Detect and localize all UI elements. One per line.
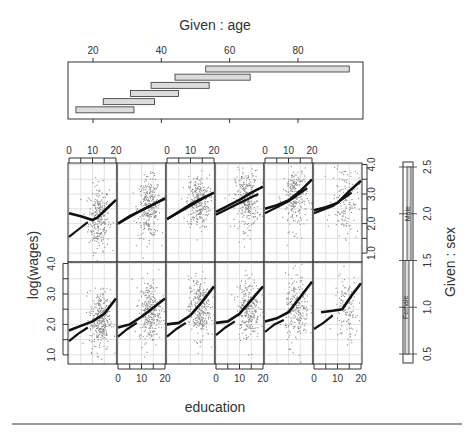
sex-tick-label: 2.5: [422, 160, 433, 174]
x-tick-label: 20: [110, 145, 122, 156]
age-tick-label: 60: [224, 45, 236, 56]
given-sex-title: Given : sex: [442, 227, 458, 297]
x-tick-label: 0: [262, 145, 268, 156]
given-age-title: Given : age: [179, 17, 251, 33]
fit-line: [216, 194, 258, 215]
sex-level-label: Female: [402, 295, 409, 318]
sex-tick-label: 2.0: [422, 206, 433, 220]
y-tick-label: 1.0: [366, 246, 377, 260]
x-tick-label: 20: [159, 373, 171, 384]
panel: [117, 163, 166, 262]
x-tick-label: 0: [213, 373, 219, 384]
y-tick-label: 2.0: [46, 317, 57, 331]
y-axis-label: log(wages): [25, 231, 41, 299]
x-axis-label: education: [185, 399, 246, 415]
fit-line: [314, 315, 333, 329]
panel: [68, 262, 117, 364]
panel: [264, 262, 313, 364]
x-tick-label: 20: [208, 145, 220, 156]
age-interval-bar: [131, 91, 179, 97]
x-tick-label: 10: [87, 145, 99, 156]
x-tick-label: 0: [66, 145, 72, 156]
age-tick-label: 40: [156, 45, 168, 56]
y-tick-label: 1.0: [46, 347, 57, 361]
coplot-chart: 20406080 0.51.01.52.02.5FemaleMale 01020…: [0, 0, 472, 434]
y-tick-label: 3.0: [46, 287, 57, 301]
sex-tick-label: 1.0: [422, 300, 433, 314]
age-interval-bar: [151, 82, 209, 88]
sex-tick-label: 1.5: [422, 253, 433, 267]
x-tick-label: 10: [332, 373, 344, 384]
age-tick-label: 80: [292, 45, 304, 56]
x-tick-label: 20: [306, 145, 318, 156]
given-sex-panel: 0.51.01.52.02.5FemaleMale: [399, 160, 433, 363]
panel: [215, 262, 264, 364]
x-tick-label: 10: [185, 145, 197, 156]
age-interval-bar: [175, 74, 250, 80]
age-interval-bar: [206, 66, 350, 72]
y-tick-label: 3.0: [366, 187, 377, 201]
x-tick-label: 20: [257, 373, 269, 384]
y-tick-label: 4.0: [366, 157, 377, 171]
x-tick-label: 20: [355, 373, 367, 384]
y-tick-label: 4.0: [46, 256, 57, 270]
x-tick-label: 10: [283, 145, 295, 156]
x-tick-label: 0: [164, 145, 170, 156]
panel: [264, 163, 313, 262]
x-tick-label: 0: [115, 373, 121, 384]
panel-grid: [68, 163, 362, 364]
panel: [313, 163, 362, 262]
panel: [117, 262, 166, 364]
fit-line: [69, 222, 88, 237]
age-interval-bar: [103, 99, 154, 105]
x-tick-label: 0: [311, 373, 317, 384]
panel: [313, 262, 362, 364]
panel: [215, 163, 264, 262]
panel: [68, 163, 117, 262]
panel: [166, 163, 215, 262]
x-tick-label: 10: [234, 373, 246, 384]
sex-tick-label: 0.5: [422, 347, 433, 361]
given-age-panel: 20406080: [68, 45, 363, 123]
age-interval-bar: [76, 107, 134, 113]
axes: 0102001020010200102001020010201.02.03.04…: [46, 145, 377, 384]
smooth-line: [321, 283, 361, 312]
x-tick-label: 10: [136, 373, 148, 384]
age-tick-label: 20: [87, 45, 99, 56]
panel: [166, 262, 215, 364]
sex-level-label: Male: [404, 206, 411, 221]
y-tick-label: 2.0: [366, 216, 377, 230]
